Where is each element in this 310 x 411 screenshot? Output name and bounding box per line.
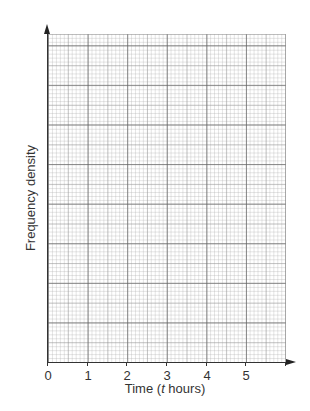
x-axis-label: Time (t hours) xyxy=(0,381,310,396)
x-tick xyxy=(285,362,286,366)
x-axis-line xyxy=(47,362,287,363)
x-axis-label-suffix: hours) xyxy=(165,381,205,396)
x-tick xyxy=(166,362,167,366)
x-tick xyxy=(47,362,48,366)
x-axis-arrow-icon xyxy=(286,359,296,365)
x-tick xyxy=(206,362,207,366)
x-tick xyxy=(245,362,246,366)
graph-paper-grid xyxy=(48,34,286,363)
x-tick xyxy=(87,362,88,366)
x-axis-label-prefix: Time ( xyxy=(125,381,161,396)
y-axis-line xyxy=(47,30,48,363)
y-axis-label: Frequency density xyxy=(23,145,38,251)
x-tick xyxy=(126,362,127,366)
y-axis-arrow-icon xyxy=(44,24,50,34)
